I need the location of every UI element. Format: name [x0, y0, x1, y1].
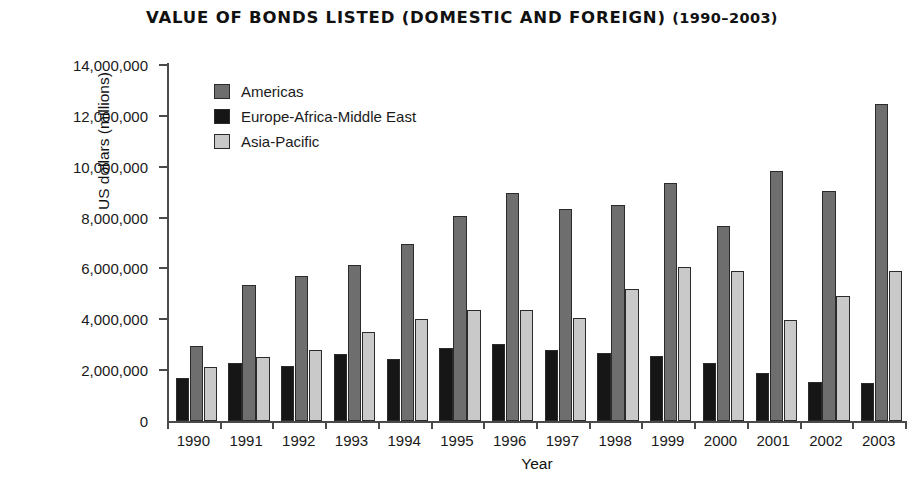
- bar: [808, 382, 821, 421]
- bar: [309, 350, 322, 421]
- x-tick-mark: [378, 421, 380, 429]
- legend-swatch-icon: [214, 134, 230, 149]
- bar-group: [861, 65, 902, 421]
- bar: [717, 226, 730, 421]
- bar: [545, 350, 558, 421]
- bar: [228, 363, 241, 421]
- y-tick-mark: [159, 64, 167, 66]
- bar: [176, 378, 189, 421]
- x-tick-label: 1990: [177, 432, 210, 449]
- y-tick-mark: [159, 318, 167, 320]
- bar: [678, 267, 691, 421]
- x-tick-label: 2002: [809, 432, 842, 449]
- x-tick-mark: [536, 421, 538, 429]
- x-tick-label: 1997: [546, 432, 579, 449]
- bar: [204, 367, 217, 421]
- x-tick-label: 2003: [862, 432, 895, 449]
- chart-title-main: VALUE OF BONDS LISTED (DOMESTIC AND FORE…: [146, 8, 666, 27]
- bar-group: [808, 65, 849, 421]
- legend-item: Europe-Africa-Middle East: [214, 105, 416, 127]
- bar: [439, 348, 452, 421]
- x-tick-mark: [694, 421, 696, 429]
- bar: [664, 183, 677, 421]
- x-tick-mark: [852, 421, 854, 429]
- bar: [387, 359, 400, 421]
- x-tick-mark: [220, 421, 222, 429]
- y-axis-tick-labels: 14,000,00012,000,00010,000,0008,000,0006…: [0, 0, 160, 479]
- x-tick-label: 2000: [704, 432, 737, 449]
- bar-group: [597, 65, 638, 421]
- legend-item: Americas: [214, 80, 416, 102]
- bar: [770, 171, 783, 421]
- x-tick-mark: [800, 421, 802, 429]
- bar-group: [703, 65, 744, 421]
- x-tick-mark: [589, 421, 591, 429]
- legend-item: Asia-Pacific: [214, 130, 416, 152]
- bar: [281, 366, 294, 421]
- x-tick-label: 1995: [440, 432, 473, 449]
- y-tick-mark: [159, 166, 167, 168]
- bar-group: [439, 65, 480, 421]
- bar: [256, 357, 269, 421]
- x-tick-mark: [431, 421, 433, 429]
- y-tick-mark: [159, 115, 167, 117]
- bar: [453, 216, 466, 421]
- chart-legend: AmericasEurope-Africa-Middle EastAsia-Pa…: [214, 80, 416, 155]
- bar: [573, 318, 586, 421]
- legend-label: Asia-Pacific: [241, 133, 319, 150]
- y-tick-mark: [159, 267, 167, 269]
- x-tick-label: 1992: [282, 432, 315, 449]
- x-tick-mark: [747, 421, 749, 429]
- bar: [242, 285, 255, 421]
- bar: [334, 354, 347, 421]
- bar: [650, 356, 663, 421]
- bar-group: [176, 65, 217, 421]
- y-tick-label: 14,000,000: [73, 57, 160, 74]
- bar-group: [492, 65, 533, 421]
- bar: [861, 383, 874, 421]
- bar: [889, 271, 902, 421]
- y-tick-label: 8,000,000: [81, 209, 160, 226]
- x-tick-label: 1994: [388, 432, 421, 449]
- bar-group: [756, 65, 797, 421]
- chart-title-years: (1990–2003): [672, 10, 778, 26]
- bar: [415, 319, 428, 421]
- x-tick-label: 1998: [598, 432, 631, 449]
- y-tick-mark: [159, 369, 167, 371]
- bar: [559, 209, 572, 421]
- bar: [703, 363, 716, 421]
- x-tick-mark: [272, 421, 274, 429]
- bar: [822, 191, 835, 421]
- x-tick-label: 2001: [757, 432, 790, 449]
- bar: [362, 332, 375, 421]
- x-axis-title: Year: [167, 455, 907, 473]
- bar: [597, 353, 610, 421]
- bar: [467, 310, 480, 421]
- x-tick-mark: [167, 421, 169, 429]
- bar: [784, 320, 797, 421]
- bar: [348, 265, 361, 421]
- legend-label: Americas: [241, 83, 304, 100]
- y-tick-label: 4,000,000: [81, 311, 160, 328]
- bar-group: [650, 65, 691, 421]
- x-tick-label: 1999: [651, 432, 684, 449]
- bar: [756, 373, 769, 421]
- bar-group: [545, 65, 586, 421]
- bar: [731, 271, 744, 421]
- x-tick-mark: [641, 421, 643, 429]
- x-tick-mark: [905, 421, 907, 429]
- y-axis-title: US dollars (millions): [95, 72, 113, 210]
- bar: [492, 344, 505, 421]
- legend-swatch-icon: [214, 84, 230, 99]
- x-tick-label: 1993: [335, 432, 368, 449]
- bar-chart-figure: VALUE OF BONDS LISTED (DOMESTIC AND FORE…: [0, 0, 924, 479]
- y-tick-label: 6,000,000: [81, 260, 160, 277]
- x-tick-mark: [483, 421, 485, 429]
- y-tick-label: 12,000,000: [73, 107, 160, 124]
- x-tick-label: 1991: [229, 432, 262, 449]
- bar: [520, 310, 533, 421]
- y-tick-label: 0: [140, 413, 160, 430]
- y-tick-mark: [159, 217, 167, 219]
- legend-label: Europe-Africa-Middle East: [241, 108, 416, 125]
- y-tick-label: 10,000,000: [73, 158, 160, 175]
